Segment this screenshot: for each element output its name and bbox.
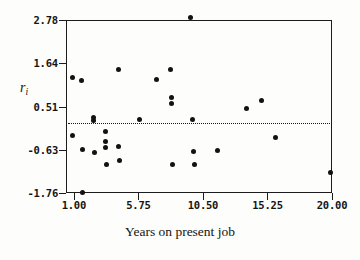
- data-point: [190, 117, 195, 122]
- x-tick-label: 20.00: [317, 199, 348, 211]
- data-point: [80, 147, 85, 152]
- data-point: [116, 67, 121, 72]
- data-point: [259, 98, 264, 103]
- x-tick-label: 1.00: [62, 199, 87, 211]
- y-tick-mark: [59, 107, 66, 108]
- y-tick-label: -0.63: [27, 144, 58, 156]
- data-point: [80, 190, 85, 195]
- y-axis-title: ri: [20, 80, 28, 97]
- data-point: [273, 135, 278, 140]
- data-point: [70, 133, 75, 138]
- y-tick-mark: [59, 20, 66, 21]
- data-point: [328, 170, 333, 175]
- data-point: [168, 67, 173, 72]
- y-tick-label: 0.51: [34, 101, 59, 113]
- data-point: [169, 95, 174, 100]
- x-axis-title: Years on present job: [0, 224, 360, 240]
- y-tick-mark: [59, 193, 66, 194]
- x-tick-label: 15.25: [252, 199, 283, 211]
- residual-scatter-plot: ri Years on present job 2.781.640.51-0.6…: [0, 0, 360, 260]
- zero-reference-line: [68, 123, 330, 124]
- data-point: [192, 162, 197, 167]
- data-point: [154, 77, 159, 82]
- y-tick-label: 1.64: [34, 57, 59, 69]
- y-tick-mark: [59, 150, 66, 151]
- data-point: [191, 149, 196, 154]
- data-point: [137, 117, 142, 122]
- y-tick-mark: [59, 63, 66, 64]
- x-tick-label: 5.75: [126, 199, 151, 211]
- data-point: [244, 106, 249, 111]
- plot-area-frame: [66, 20, 332, 193]
- data-point: [70, 75, 75, 80]
- y-axis-title-subscript: i: [25, 87, 28, 97]
- y-tick-label: 2.78: [34, 14, 59, 26]
- y-tick-label: -1.76: [27, 187, 58, 199]
- data-point: [92, 150, 97, 155]
- x-tick-label: 10.50: [188, 199, 219, 211]
